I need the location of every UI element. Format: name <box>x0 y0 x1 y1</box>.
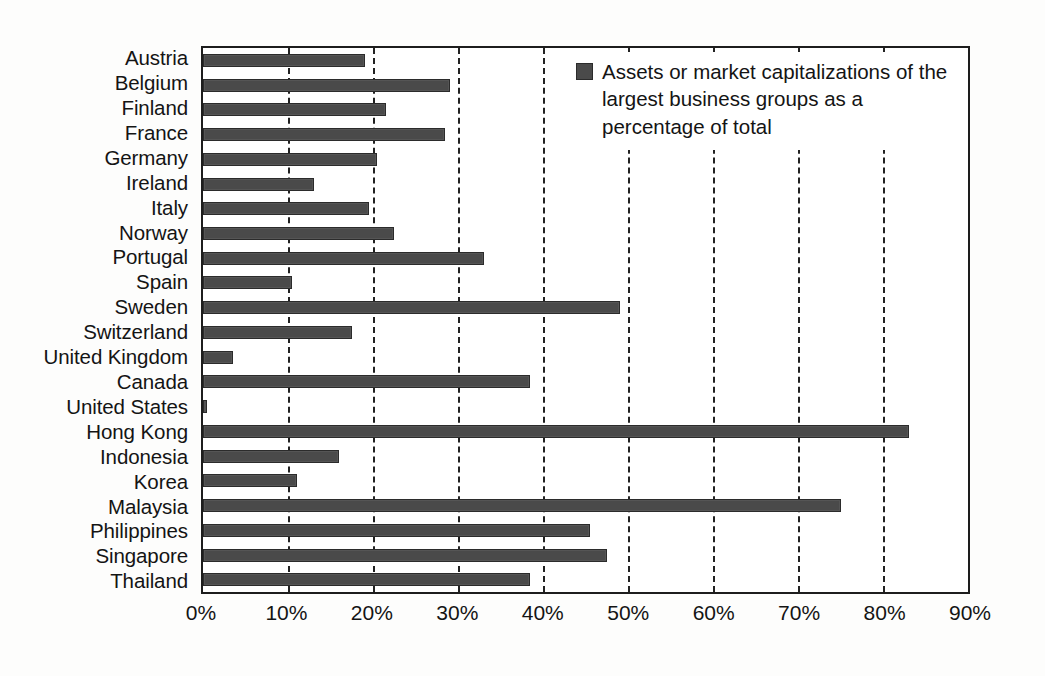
y-axis-category-labels: AustriaBelgiumFinlandFranceGermanyIrelan… <box>0 46 196 594</box>
y-axis-label: Indonesia <box>0 445 196 470</box>
bar <box>203 549 607 562</box>
x-axis-tick-label: 90% <box>949 602 991 623</box>
y-axis-label: Spain <box>0 270 196 295</box>
x-axis-tick-label: 70% <box>778 602 820 623</box>
x-axis-tick-labels: 0%10%20%30%40%50%60%70%80%90% <box>201 602 970 636</box>
x-axis-tick-label: 0% <box>186 602 216 623</box>
bar-row <box>203 394 968 419</box>
bar <box>203 425 909 438</box>
bar-chart-figure: AustriaBelgiumFinlandFranceGermanyIrelan… <box>0 0 1045 676</box>
bar <box>203 252 484 265</box>
y-axis-label: United States <box>0 395 196 420</box>
bar-row <box>203 172 968 197</box>
y-axis-label: United Kingdom <box>0 345 196 370</box>
y-axis-label: Malaysia <box>0 494 196 519</box>
bar <box>203 202 369 215</box>
bar-row <box>203 370 968 395</box>
bar-row <box>203 419 968 444</box>
x-axis-tick-label: 50% <box>607 602 649 623</box>
bar <box>203 301 620 314</box>
x-axis-tick-label: 40% <box>522 602 564 623</box>
bar <box>203 103 386 116</box>
bar-row <box>203 147 968 172</box>
x-axis-tick-label: 10% <box>265 602 307 623</box>
bar-row <box>203 271 968 296</box>
bar <box>203 375 530 388</box>
y-axis-label: Sweden <box>0 295 196 320</box>
bar <box>203 128 445 141</box>
x-axis-tick-label: 60% <box>693 602 735 623</box>
bar-row <box>203 345 968 370</box>
bar-row <box>203 518 968 543</box>
legend-swatch-icon <box>576 63 593 80</box>
bar <box>203 573 530 586</box>
bar <box>203 153 377 166</box>
y-axis-label: Belgium <box>0 71 196 96</box>
bar-row <box>203 196 968 221</box>
chart-legend: Assets or market capitalizations of the … <box>566 52 962 150</box>
bar-row <box>203 567 968 592</box>
bar-row <box>203 246 968 271</box>
x-axis-tick-label: 80% <box>864 602 906 623</box>
bar-row <box>203 221 968 246</box>
y-axis-label: Germany <box>0 146 196 171</box>
x-axis-tick-label: 20% <box>351 602 393 623</box>
y-axis-label: Canada <box>0 370 196 395</box>
y-axis-label: Ireland <box>0 171 196 196</box>
bar <box>203 79 450 92</box>
bar <box>203 450 339 463</box>
bar-row <box>203 444 968 469</box>
bar-row <box>203 543 968 568</box>
y-axis-label: Philippines <box>0 519 196 544</box>
bar <box>203 227 394 240</box>
bar <box>203 326 352 339</box>
y-axis-label: Hong Kong <box>0 420 196 445</box>
bar-row <box>203 320 968 345</box>
y-axis-label: Portugal <box>0 245 196 270</box>
y-axis-label: Finland <box>0 96 196 121</box>
legend-label: Assets or market capitalizations of the … <box>602 58 954 140</box>
y-axis-label: Singapore <box>0 544 196 569</box>
bar <box>203 474 297 487</box>
bar-row <box>203 295 968 320</box>
bar <box>203 54 365 67</box>
bar <box>203 524 590 537</box>
bar <box>203 178 314 191</box>
y-axis-label: Thailand <box>0 569 196 594</box>
bar-row <box>203 493 968 518</box>
y-axis-label: Austria <box>0 46 196 71</box>
y-axis-label: France <box>0 121 196 146</box>
x-axis-tick-label: 30% <box>436 602 478 623</box>
y-axis-label: Norway <box>0 220 196 245</box>
bar-row <box>203 468 968 493</box>
bar <box>203 351 233 364</box>
bar <box>203 400 207 413</box>
bar <box>203 499 841 512</box>
y-axis-label: Italy <box>0 195 196 220</box>
y-axis-label: Korea <box>0 469 196 494</box>
bar <box>203 276 292 289</box>
y-axis-label: Switzerland <box>0 320 196 345</box>
